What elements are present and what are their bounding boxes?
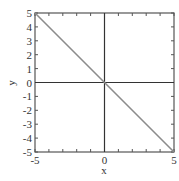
x-tick-label: 5	[171, 154, 177, 166]
y-tick-label: 3	[27, 35, 33, 47]
y-tick-label: -1	[23, 90, 32, 102]
y-tick-label: 5	[27, 7, 33, 19]
y-tick-label: -2	[23, 104, 32, 116]
y-tick-label: -4	[23, 132, 33, 144]
y-tick-label: 1	[27, 63, 33, 75]
y-axis-label: y	[5, 80, 17, 86]
y-tick-label: -3	[23, 118, 33, 130]
y-tick-label: 2	[27, 49, 33, 61]
y-tick-label: -5	[23, 146, 33, 158]
y-tick-label: 4	[27, 21, 33, 33]
y-tick-label: 0	[27, 77, 33, 89]
x-axis-label: x	[101, 164, 107, 176]
y-tick-labels: -5-4-3-2-1012345	[23, 7, 33, 158]
line-chart: -505 -5-4-3-2-1012345 x y	[0, 0, 179, 181]
